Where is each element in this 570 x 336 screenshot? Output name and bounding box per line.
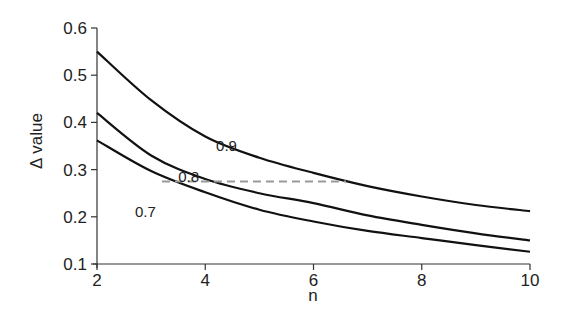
curve-0-9 — [97, 52, 530, 212]
x-tick-label: 8 — [417, 271, 426, 290]
y-axis-title: Δ value — [27, 113, 46, 169]
x-tick-label: 4 — [201, 271, 210, 290]
x-axis-title: n — [308, 286, 317, 305]
x-tick-label: 10 — [521, 271, 540, 290]
curve-0-7 — [97, 140, 530, 251]
y-tick-label: 0.4 — [63, 113, 87, 132]
x-tick-label: 2 — [92, 271, 101, 290]
line-chart: 0.10.20.30.40.50.6246810 0.90.80.7 n Δ v… — [0, 0, 570, 336]
curve-label: 0.9 — [216, 137, 237, 154]
curve-labels: 0.90.80.7 — [135, 137, 237, 220]
y-tick-label: 0.1 — [63, 255, 87, 274]
curves — [97, 52, 530, 252]
curve-label: 0.7 — [135, 203, 156, 220]
y-tick-label: 0.3 — [63, 161, 87, 180]
y-tick-label: 0.6 — [63, 19, 87, 38]
curve-label: 0.8 — [178, 168, 199, 185]
y-tick-label: 0.2 — [63, 208, 87, 227]
axes: 0.10.20.30.40.50.6246810 — [63, 19, 539, 290]
y-tick-label: 0.5 — [63, 66, 87, 85]
